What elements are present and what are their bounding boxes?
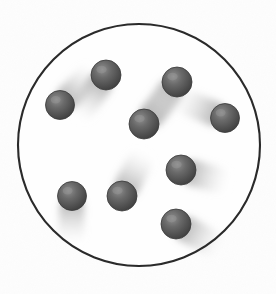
- particle-highlight: [63, 187, 73, 195]
- particle-sphere: [58, 182, 87, 211]
- particle-bottom-right: [161, 209, 191, 239]
- particle-highlight: [167, 73, 177, 81]
- particle-highlight: [96, 66, 106, 74]
- particle-highlight: [112, 187, 122, 195]
- container-fill: [18, 24, 260, 266]
- particle-right-lower: [166, 155, 196, 185]
- particle-sphere: [91, 60, 121, 90]
- figure-canvas: [0, 0, 276, 294]
- particle-highlight: [166, 215, 176, 223]
- particle-right-middle: [211, 104, 240, 133]
- particle-highlight: [134, 115, 144, 123]
- particle-highlight: [171, 161, 181, 169]
- particle-sphere: [166, 155, 196, 185]
- particle-top-left: [91, 60, 121, 90]
- particle-motion-figure: [0, 0, 276, 294]
- particle-top-right: [162, 67, 192, 97]
- particle-highlight: [51, 96, 61, 104]
- particle-sphere: [211, 104, 240, 133]
- particle-lower-left: [58, 182, 87, 211]
- particle-sphere: [129, 109, 159, 139]
- particle-lower-center: [107, 181, 137, 211]
- particle-sphere: [46, 91, 75, 120]
- particle-sphere: [161, 209, 191, 239]
- particle-center: [129, 109, 159, 139]
- particle-sphere: [162, 67, 192, 97]
- particle-sphere: [107, 181, 137, 211]
- particle-highlight: [216, 109, 226, 117]
- particle-upper-left: [46, 91, 75, 120]
